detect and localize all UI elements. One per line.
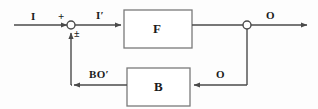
label-forward-block-f: F (153, 22, 161, 35)
label-summing-plus-sign: + (58, 11, 65, 22)
label-input-signal: I (31, 11, 36, 22)
label-summing-plusminus-sign: ± (74, 29, 80, 39)
label-output-signal: O (266, 10, 275, 21)
output-takeoff-node (243, 21, 251, 29)
label-feedback-tap-signal: O (216, 69, 225, 80)
label-error-signal: I′ (96, 10, 104, 21)
block-diagram-canvas: I + ± I′ O O BO′ F B (0, 0, 318, 109)
label-feedback-block-b: B (154, 80, 163, 93)
label-feedback-signal: BO′ (89, 69, 109, 80)
